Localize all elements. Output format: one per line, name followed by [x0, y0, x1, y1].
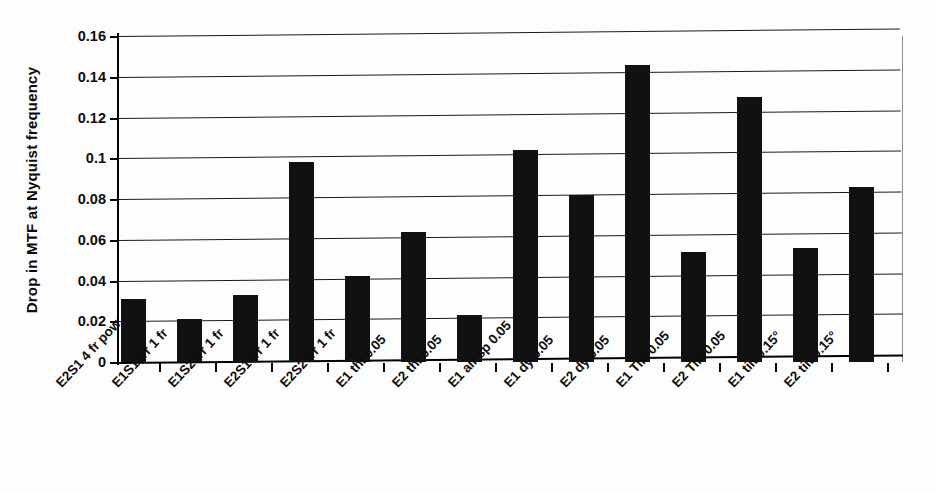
y-tick-mark — [110, 118, 119, 120]
bar — [569, 195, 594, 362]
bar — [513, 150, 538, 362]
x-tick-mark — [271, 363, 273, 372]
y-tick-mark — [110, 77, 119, 79]
y-tick-label: 0.12 — [62, 110, 106, 126]
x-tick-mark — [719, 363, 721, 372]
bar-chart: Drop in MTF at Nyquist frequency 0.160.1… — [0, 0, 936, 493]
y-tick-mark — [110, 36, 119, 38]
x-tick-mark — [831, 363, 833, 372]
x-tick-mark — [215, 363, 217, 372]
y-tick-mark — [110, 321, 119, 323]
y-tick-label: 0.06 — [62, 232, 106, 248]
x-tick-mark — [159, 363, 161, 372]
gridline — [116, 69, 900, 78]
gridline — [118, 232, 902, 241]
x-tick-mark — [327, 363, 329, 372]
x-tick-mark — [663, 363, 665, 372]
y-tick-label: 0.04 — [62, 273, 106, 289]
x-tick-mark — [551, 363, 553, 372]
y-tick-label: 0.08 — [62, 191, 106, 207]
x-tick-mark — [495, 363, 497, 372]
y-axis-tick-labels: 0.160.140.120.10.080.060.040.020 — [56, 0, 106, 493]
gridline — [116, 28, 900, 37]
bar — [737, 97, 762, 362]
x-tick-mark — [775, 363, 777, 372]
bar — [289, 162, 314, 362]
x-tick-mark — [439, 363, 441, 372]
gridline — [117, 110, 901, 119]
plot-area — [119, 36, 903, 362]
x-tick-mark — [607, 363, 609, 372]
bar — [849, 187, 874, 362]
y-tick-mark — [110, 199, 119, 201]
y-tick-mark — [110, 362, 119, 364]
y-tick-mark — [110, 281, 119, 283]
gridline — [117, 191, 901, 200]
y-tick-mark — [110, 158, 119, 160]
y-tick-label: 0.14 — [62, 69, 106, 85]
x-tick-mark — [383, 363, 385, 372]
bar — [625, 65, 650, 362]
y-tick-label: 0.16 — [62, 28, 106, 44]
y-axis-title: Drop in MTF at Nyquist frequency — [18, 10, 44, 370]
x-tick-mark — [887, 363, 889, 372]
y-tick-label: 0.1 — [62, 150, 106, 166]
y-tick-label: 0.02 — [62, 313, 106, 329]
gridline — [118, 273, 902, 282]
y-tick-mark — [110, 240, 119, 242]
gridline — [117, 151, 901, 160]
